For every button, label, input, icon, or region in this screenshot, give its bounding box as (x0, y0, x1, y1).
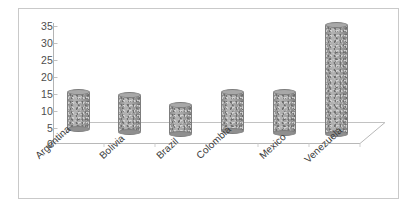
bar-cylinder-top (67, 89, 90, 95)
bar-cylinder-base (118, 129, 141, 135)
y-axis-labels: 35 30 25 20 15 10 5 0 (29, 9, 53, 200)
bar-argentina[interactable] (67, 89, 90, 129)
y-tick-label: 25 (33, 55, 53, 65)
bar-cylinder-top (273, 89, 296, 95)
bar-mexico[interactable] (273, 89, 296, 133)
bar-cylinder-top (169, 102, 192, 108)
bar-cylinder-body (325, 25, 348, 134)
y-tick-label: 15 (33, 89, 53, 99)
bar-cylinder-body (67, 92, 90, 129)
bar-cylinder-top (325, 22, 348, 28)
y-tick-label: 5 (33, 123, 53, 133)
bar-venezuela[interactable] (325, 22, 348, 134)
bar-cylinder-top (118, 92, 141, 98)
y-axis-ticks (54, 27, 58, 144)
chart-frame: 35 30 25 20 15 10 5 0 (18, 8, 399, 199)
bar-brazil[interactable] (169, 102, 192, 134)
bar-bolivia[interactable] (118, 92, 141, 132)
bar-cylinder-body (273, 92, 296, 133)
y-tick-label: 30 (33, 38, 53, 48)
y-tick-label: 10 (33, 106, 53, 116)
bar-cylinder-top (221, 89, 244, 95)
y-tick-label: 20 (33, 72, 53, 82)
bar-cylinder-body (118, 95, 141, 132)
y-tick-label: 35 (33, 21, 53, 31)
bar-cylinder-body (169, 105, 192, 134)
